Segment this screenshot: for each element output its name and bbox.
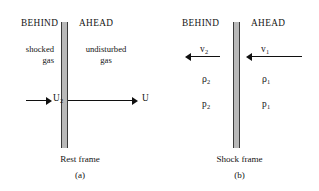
panel-letter-b: (b) (160, 170, 319, 180)
velocity-arrow-v1 (160, 56, 319, 57)
velocity-label-u2: U2 (53, 93, 63, 103)
undisturbed-gas-line-1: undisturbed (86, 44, 127, 54)
heading-ahead-a: AHEAD (79, 18, 113, 28)
pressure-label-behind: p2 (202, 99, 210, 109)
region-label-shocked-gas: shocked gas (0, 44, 54, 66)
shocked-gas-line-1: shocked (26, 44, 54, 54)
caption-rest-frame: Rest frame (0, 154, 160, 164)
velocity-arrow-u (0, 100, 160, 101)
region-label-undisturbed-gas: undisturbed gas (70, 44, 142, 66)
arrow-shaft-v1 (252, 56, 302, 57)
shock-wave-figure: BEHIND AHEAD shocked gas undisturbed gas… (0, 0, 319, 191)
density-label-ahead: ρ1 (262, 73, 270, 84)
velocity-label-v1: v1 (261, 44, 269, 54)
panel-rest-frame: BEHIND AHEAD shocked gas undisturbed gas… (0, 0, 160, 191)
caption-shock-frame: Shock frame (160, 154, 319, 164)
density-label-behind: ρ2 (202, 73, 210, 84)
heading-behind-b: BEHIND (182, 18, 219, 28)
pressure-label-ahead: p1 (262, 99, 270, 109)
velocity-label-v2: v2 (200, 44, 208, 54)
velocity-label-u: U (142, 93, 149, 103)
arrow-shaft-u (68, 100, 133, 101)
shock-front-bar-a (61, 22, 68, 148)
panel-letter-a: (a) (0, 170, 160, 180)
shocked-gas-line-2: gas (43, 55, 54, 65)
heading-behind-a: BEHIND (21, 18, 58, 28)
arrowhead-right-u (132, 97, 138, 105)
shock-front-bar-b (233, 22, 240, 148)
heading-ahead-b: AHEAD (251, 18, 285, 28)
panel-shock-frame: BEHIND AHEAD v2 v1 ρ2 ρ1 p2 p1 Shock fra… (160, 0, 319, 191)
undisturbed-gas-line-2: gas (100, 55, 111, 65)
